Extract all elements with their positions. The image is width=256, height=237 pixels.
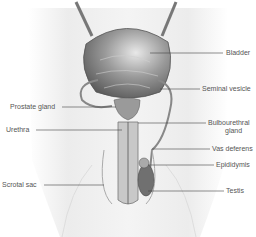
label-urethra: Urethra — [6, 126, 29, 134]
label-scrotal-sac: Scrotal sac — [2, 181, 37, 189]
anatomy-diagram: Bladder Seminal vesicle Prostate gland U… — [0, 0, 256, 237]
label-bulbourethral-gland-line2: gland — [225, 127, 242, 135]
label-vas-deferens: Vas deferens — [212, 145, 253, 153]
label-testis: Testis — [226, 187, 244, 195]
label-epididymis: Epididymis — [216, 161, 250, 169]
epididymis-organ — [139, 158, 149, 168]
bladder-organ — [84, 28, 171, 98]
label-seminal-vesicle: Seminal vesicle — [202, 85, 251, 93]
label-bladder: Bladder — [226, 49, 250, 57]
label-prostate-gland: Prostate gland — [10, 103, 55, 111]
label-bulbourethral-gland-line1: Bulbourethral — [208, 119, 250, 127]
